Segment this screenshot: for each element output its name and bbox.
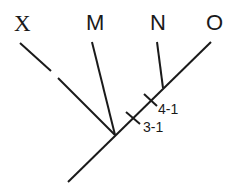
annotation-3-1: 3-1 [143,120,163,134]
cladogram-lines [0,0,239,186]
taxon-label-n: N [150,12,166,34]
trunk-branch [68,42,211,182]
branch-n [157,42,163,88]
taxon-label-m: M [86,12,104,34]
taxon-label-o: O [206,12,223,34]
branch-x-lower [58,78,115,135]
taxon-label-x: X [14,12,31,35]
annotation-4-1: 4-1 [158,102,178,116]
branch-m [92,42,115,135]
branch-x-upper [20,43,51,71]
